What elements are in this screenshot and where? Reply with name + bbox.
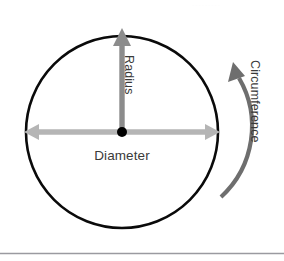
diameter-label: Diameter — [94, 148, 150, 163]
center-point-dot — [117, 127, 127, 137]
circumference-label: Circumference — [248, 60, 262, 143]
circle-diagram — [0, 0, 284, 261]
figure-canvas: ......... Radius Diameter Circumference — [0, 0, 284, 261]
radius-label: Radius — [122, 55, 136, 95]
